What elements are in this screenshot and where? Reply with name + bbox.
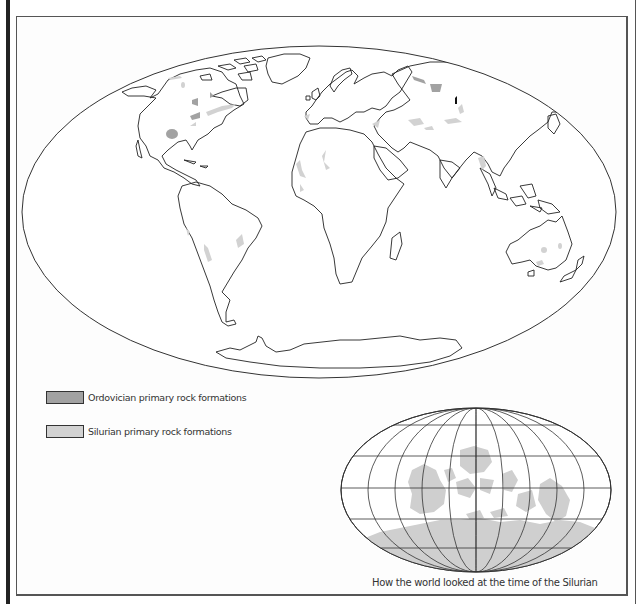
silurian-formation: [558, 243, 562, 249]
legend-item-ordovician: Ordovician primary rock formations: [46, 391, 246, 404]
world-map: [0, 0, 638, 604]
legend-label-silurian: Silurian primary rock formations: [88, 426, 232, 437]
ordovician-formation: [166, 129, 178, 139]
silurian-formation: [541, 247, 547, 253]
legend-label-ordovician: Ordovician primary rock formations: [88, 392, 246, 403]
silurian-swatch: [46, 425, 84, 438]
inset-caption: How the world looked at the time of the …: [372, 577, 598, 588]
kamchatka: [570, 82, 588, 102]
silurian-formation: [181, 82, 185, 88]
ordovician-formation: [430, 84, 442, 92]
ordovician-swatch: [46, 391, 84, 404]
silurian-globe-inset: [330, 408, 620, 580]
legend-item-silurian: Silurian primary rock formations: [46, 425, 232, 438]
